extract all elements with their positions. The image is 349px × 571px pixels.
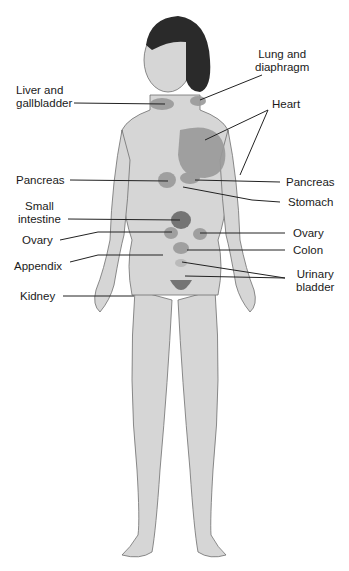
label-ovary-left: Ovary	[22, 234, 53, 247]
label-pancreas-right: Pancreas	[286, 176, 335, 189]
label-kidney: Kidney	[20, 290, 55, 303]
label-pancreas-left: Pancreas	[16, 174, 65, 187]
label-heart: Heart	[272, 98, 300, 111]
label-liver-gallbladder: Liver and gallbladder	[16, 84, 72, 110]
label-ovary-right: Ovary	[293, 227, 324, 240]
label-lung-diaphragm: Lung and diaphragm	[255, 48, 309, 74]
label-colon: Colon	[293, 244, 323, 257]
label-small-intestine: Small intestine	[18, 200, 61, 226]
label-stomach: Stomach	[288, 196, 333, 209]
label-appendix: Appendix	[14, 260, 62, 273]
label-urinary-bladder: Urinary bladder	[296, 268, 334, 294]
